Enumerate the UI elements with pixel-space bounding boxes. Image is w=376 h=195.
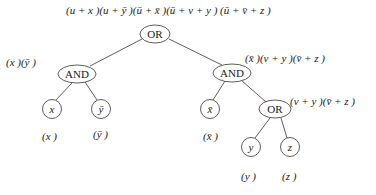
edge-or-root-and-left bbox=[90, 39, 142, 66]
edge-or-root-and-right bbox=[169, 39, 222, 65]
svg-text:z: z bbox=[287, 141, 293, 153]
svg-text:x: x bbox=[49, 103, 55, 115]
svg-text:y: y bbox=[248, 141, 254, 153]
leaf-ybar-annotation: (ȳ ) bbox=[93, 128, 108, 140]
node-leaf-xbar: x̄ bbox=[201, 100, 220, 119]
edge-and-left-ybar bbox=[85, 82, 97, 100]
node-leaf-y: y bbox=[242, 138, 261, 157]
node-leaf-z: z bbox=[281, 138, 300, 157]
node-and-left: AND bbox=[58, 65, 96, 83]
svg-text:x̄: x̄ bbox=[207, 103, 213, 115]
leaf-x-annotation: (x ) bbox=[42, 130, 57, 142]
leaf-y-annotation: (y ) bbox=[241, 170, 256, 182]
expression-tree-diagram: OR AND AND x ȳ x̄ OR y bbox=[0, 0, 376, 195]
edge-and-right-or-inner bbox=[241, 80, 266, 102]
edge-and-left-x bbox=[56, 83, 72, 100]
svg-text:AND: AND bbox=[220, 67, 244, 79]
edge-or-inner-y bbox=[255, 118, 270, 138]
leaf-z-annotation: (z ) bbox=[282, 170, 296, 182]
node-or-inner: OR bbox=[259, 100, 291, 118]
node-leaf-ybar: ȳ bbox=[92, 100, 111, 119]
and-right-annotation: (x̄ )(v + y )(v̄ + z ) bbox=[245, 52, 325, 64]
and-left-annotation: (x )(ȳ ) bbox=[6, 56, 36, 68]
edge-or-inner-z bbox=[281, 118, 287, 138]
node-or-root: OR bbox=[140, 25, 170, 43]
or-inner-annotation: (v + y )(v̄ + z ) bbox=[290, 95, 355, 107]
svg-text:AND: AND bbox=[65, 68, 89, 80]
edge-and-right-xbar bbox=[213, 81, 225, 100]
svg-text:OR: OR bbox=[267, 103, 283, 115]
leaf-xbar-annotation: (x̄ ) bbox=[203, 130, 218, 142]
node-and-right: AND bbox=[213, 64, 251, 82]
root-expression-label: (u + x )(u + ȳ )(ū + x̄ )(ū + v + y ) (ū… bbox=[66, 4, 271, 16]
node-leaf-x: x bbox=[43, 100, 62, 119]
svg-text:OR: OR bbox=[147, 28, 163, 40]
